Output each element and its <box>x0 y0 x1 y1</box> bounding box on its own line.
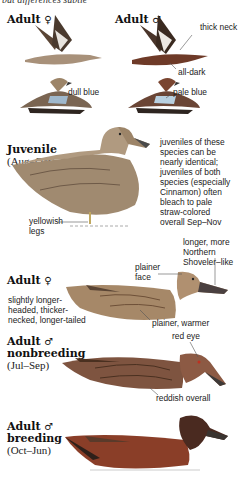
male-breeding-duck-illustration <box>0 0 243 479</box>
